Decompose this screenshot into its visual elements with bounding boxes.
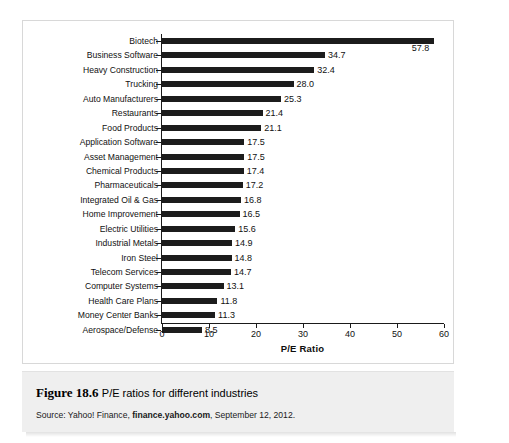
x-axis-ticks: 0102030405060 — [23, 21, 453, 363]
figure-container: Biotech57.8Business Software34.7Heavy Co… — [0, 0, 509, 443]
plot-area: Biotech57.8Business Software34.7Heavy Co… — [23, 21, 453, 363]
x-axis-tick-label: 0 — [159, 328, 164, 341]
source-suffix: , September 12, 2012. — [210, 410, 295, 420]
x-axis-title: P/E Ratio — [161, 343, 444, 354]
source-link[interactable]: finance.yahoo.com — [132, 410, 210, 420]
source-prefix: Source: Yahoo! Finance, — [36, 410, 132, 420]
caption-band: Figure 18.6 P/E ratios for different ind… — [22, 371, 454, 432]
x-axis-tick-label: 50 — [392, 328, 402, 341]
figure-source: Source: Yahoo! Finance, finance.yahoo.co… — [36, 410, 295, 420]
chart-frame: Biotech57.8Business Software34.7Heavy Co… — [22, 20, 454, 364]
x-axis-tick-label: 30 — [298, 328, 308, 341]
page-edge-shadow — [26, 432, 456, 437]
x-axis-tick-label: 60 — [439, 328, 449, 341]
figure-caption: Figure 18.6 P/E ratios for different ind… — [36, 385, 258, 401]
figure-number: Figure 18.6 — [36, 385, 99, 400]
x-axis-tick-label: 20 — [251, 328, 261, 341]
figure-title: P/E ratios for different industries — [102, 387, 258, 399]
x-axis-tick-label: 40 — [345, 328, 355, 341]
x-axis-tick-label: 10 — [204, 328, 214, 341]
